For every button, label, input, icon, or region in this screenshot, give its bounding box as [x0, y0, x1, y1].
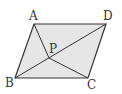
parallelogram-diagram: A D B C P	[0, 0, 122, 94]
label-p: P	[49, 42, 57, 56]
label-b: B	[5, 76, 14, 90]
label-a: A	[28, 9, 38, 23]
label-c: C	[87, 78, 96, 92]
label-d: D	[103, 9, 113, 23]
